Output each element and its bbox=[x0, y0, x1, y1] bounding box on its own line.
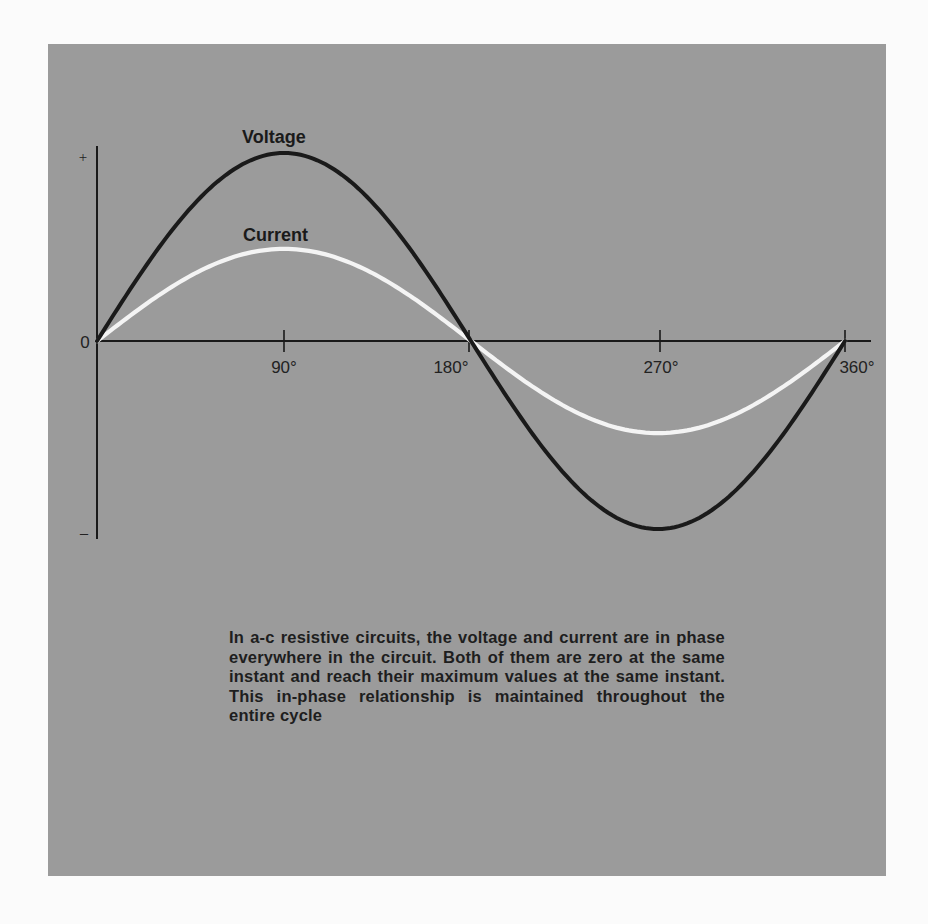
y-minus-label: – bbox=[79, 524, 89, 541]
current-label: Current bbox=[243, 225, 308, 245]
origin-label: 0 bbox=[80, 333, 89, 352]
x-tick-label-360: 360° bbox=[839, 358, 874, 377]
figure-caption: In a-c resistive circuits, the voltage a… bbox=[229, 628, 725, 726]
voltage-label: Voltage bbox=[242, 127, 306, 147]
y-plus-label: + bbox=[79, 149, 87, 165]
x-tick-label-270: 270° bbox=[643, 358, 678, 377]
sine-wave-chart: + – 0 90° 180° 270° 360° Voltage Current bbox=[0, 0, 928, 924]
x-tick-label-90: 90° bbox=[271, 358, 297, 377]
x-tick-label-180: 180° bbox=[433, 358, 468, 377]
